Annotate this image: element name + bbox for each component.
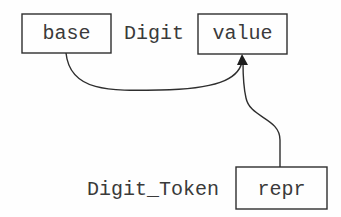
- attribute-box-repr[interactable]: repr: [236, 167, 327, 209]
- attribute-box-base[interactable]: base: [22, 14, 111, 53]
- class-label-digit: Digit: [124, 22, 184, 45]
- arrowhead-icon: [237, 54, 248, 65]
- edge-repr-to-value: [243, 62, 280, 167]
- attribute-label-base: base: [42, 22, 90, 45]
- attribute-label-value: value: [212, 22, 272, 45]
- attribute-box-value[interactable]: value: [198, 14, 287, 54]
- diagram-svg: base Digit value Digit_Token repr: [0, 0, 341, 217]
- edge-base-to-value: [66, 53, 242, 90]
- attribute-label-repr: repr: [257, 178, 305, 201]
- diagram-canvas: base Digit value Digit_Token repr: [0, 0, 341, 217]
- class-label-digit-token: Digit_Token: [87, 178, 219, 201]
